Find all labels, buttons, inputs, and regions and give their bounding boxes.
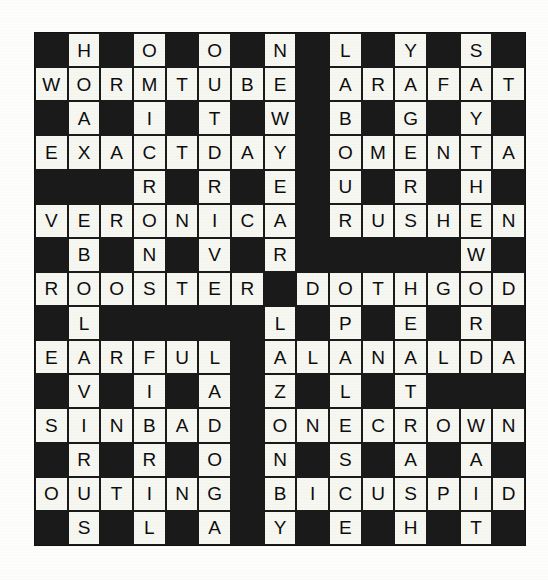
crossword-letter-cell[interactable]: A bbox=[394, 67, 427, 101]
crossword-letter-cell[interactable]: A bbox=[198, 374, 231, 408]
crossword-letter-cell[interactable]: D bbox=[492, 272, 525, 306]
crossword-letter-cell[interactable]: T bbox=[166, 135, 199, 169]
crossword-letter-cell[interactable]: I bbox=[296, 477, 329, 511]
crossword-letter-cell[interactable]: A bbox=[264, 340, 297, 374]
crossword-letter-cell[interactable]: C bbox=[231, 204, 264, 238]
crossword-letter-cell[interactable]: A bbox=[329, 67, 362, 101]
crossword-letter-cell[interactable]: A bbox=[460, 443, 493, 477]
crossword-letter-cell[interactable]: S bbox=[329, 443, 362, 477]
crossword-letter-cell[interactable]: Y bbox=[460, 101, 493, 135]
crossword-letter-cell[interactable]: I bbox=[198, 204, 231, 238]
crossword-letter-cell[interactable]: T bbox=[198, 101, 231, 135]
crossword-letter-cell[interactable]: L bbox=[198, 340, 231, 374]
crossword-letter-cell[interactable]: A bbox=[166, 408, 199, 442]
crossword-letter-cell[interactable]: D bbox=[460, 340, 493, 374]
crossword-letter-cell[interactable]: W bbox=[264, 101, 297, 135]
crossword-letter-cell[interactable]: R bbox=[133, 170, 166, 204]
crossword-letter-cell[interactable]: R bbox=[100, 67, 133, 101]
crossword-letter-cell[interactable]: S bbox=[133, 272, 166, 306]
crossword-letter-cell[interactable]: D bbox=[198, 408, 231, 442]
crossword-letter-cell[interactable]: R bbox=[329, 204, 362, 238]
crossword-letter-cell[interactable]: E bbox=[329, 408, 362, 442]
crossword-letter-cell[interactable]: C bbox=[329, 477, 362, 511]
crossword-letter-cell[interactable]: R bbox=[394, 408, 427, 442]
crossword-letter-cell[interactable]: W bbox=[460, 238, 493, 272]
crossword-letter-cell[interactable]: N bbox=[427, 135, 460, 169]
crossword-letter-cell[interactable]: Y bbox=[264, 511, 297, 545]
crossword-letter-cell[interactable]: G bbox=[198, 477, 231, 511]
crossword-letter-cell[interactable]: B bbox=[329, 101, 362, 135]
crossword-grid[interactable]: HOONLYSWORMTUBEARAFATAITWBGYEXACTDAYOMEN… bbox=[34, 32, 526, 546]
crossword-letter-cell[interactable]: O bbox=[427, 408, 460, 442]
crossword-letter-cell[interactable]: B bbox=[68, 238, 101, 272]
crossword-letter-cell[interactable]: T bbox=[362, 272, 395, 306]
crossword-letter-cell[interactable]: X bbox=[68, 135, 101, 169]
crossword-letter-cell[interactable]: F bbox=[427, 67, 460, 101]
crossword-letter-cell[interactable]: O bbox=[133, 204, 166, 238]
crossword-letter-cell[interactable]: B bbox=[264, 477, 297, 511]
crossword-letter-cell[interactable]: L bbox=[296, 340, 329, 374]
crossword-letter-cell[interactable]: N bbox=[166, 204, 199, 238]
crossword-letter-cell[interactable]: T bbox=[166, 67, 199, 101]
crossword-letter-cell[interactable]: E bbox=[264, 67, 297, 101]
crossword-letter-cell[interactable]: N bbox=[264, 33, 297, 67]
crossword-letter-cell[interactable]: Z bbox=[264, 374, 297, 408]
crossword-letter-cell[interactable]: E bbox=[394, 135, 427, 169]
crossword-letter-cell[interactable]: T bbox=[166, 272, 199, 306]
crossword-letter-cell[interactable]: S bbox=[68, 511, 101, 545]
crossword-letter-cell[interactable]: G bbox=[427, 272, 460, 306]
crossword-letter-cell[interactable]: Y bbox=[394, 33, 427, 67]
crossword-letter-cell[interactable]: R bbox=[198, 170, 231, 204]
crossword-letter-cell[interactable]: O bbox=[68, 272, 101, 306]
crossword-letter-cell[interactable]: S bbox=[460, 33, 493, 67]
crossword-letter-cell[interactable]: V bbox=[198, 238, 231, 272]
crossword-letter-cell[interactable]: O bbox=[35, 477, 68, 511]
crossword-letter-cell[interactable]: O bbox=[329, 135, 362, 169]
crossword-letter-cell[interactable]: S bbox=[394, 477, 427, 511]
crossword-letter-cell[interactable]: E bbox=[329, 511, 362, 545]
crossword-letter-cell[interactable]: L bbox=[264, 306, 297, 340]
crossword-letter-cell[interactable]: R bbox=[362, 67, 395, 101]
crossword-letter-cell[interactable]: R bbox=[133, 443, 166, 477]
crossword-letter-cell[interactable]: H bbox=[394, 511, 427, 545]
crossword-letter-cell[interactable]: E bbox=[35, 340, 68, 374]
crossword-letter-cell[interactable]: S bbox=[394, 204, 427, 238]
crossword-letter-cell[interactable]: H bbox=[394, 272, 427, 306]
crossword-letter-cell[interactable]: N bbox=[492, 408, 525, 442]
crossword-letter-cell[interactable]: R bbox=[100, 204, 133, 238]
crossword-letter-cell[interactable]: A bbox=[231, 135, 264, 169]
crossword-letter-cell[interactable]: A bbox=[492, 340, 525, 374]
crossword-letter-cell[interactable]: T bbox=[492, 67, 525, 101]
crossword-letter-cell[interactable]: P bbox=[329, 306, 362, 340]
crossword-letter-cell[interactable]: O bbox=[329, 272, 362, 306]
crossword-letter-cell[interactable]: O bbox=[264, 408, 297, 442]
crossword-letter-cell[interactable]: O bbox=[68, 67, 101, 101]
crossword-letter-cell[interactable]: H bbox=[427, 204, 460, 238]
crossword-letter-cell[interactable]: U bbox=[362, 477, 395, 511]
crossword-letter-cell[interactable]: Y bbox=[264, 135, 297, 169]
crossword-letter-cell[interactable]: U bbox=[166, 340, 199, 374]
crossword-letter-cell[interactable]: I bbox=[460, 477, 493, 511]
crossword-letter-cell[interactable]: O bbox=[460, 272, 493, 306]
crossword-letter-cell[interactable]: T bbox=[394, 374, 427, 408]
crossword-letter-cell[interactable]: O bbox=[198, 33, 231, 67]
crossword-letter-cell[interactable]: I bbox=[133, 477, 166, 511]
crossword-letter-cell[interactable]: L bbox=[329, 374, 362, 408]
crossword-letter-cell[interactable]: I bbox=[68, 408, 101, 442]
crossword-letter-cell[interactable]: B bbox=[133, 408, 166, 442]
crossword-letter-cell[interactable]: N bbox=[492, 204, 525, 238]
crossword-letter-cell[interactable]: U bbox=[362, 204, 395, 238]
crossword-letter-cell[interactable]: U bbox=[68, 477, 101, 511]
crossword-letter-cell[interactable]: R bbox=[231, 272, 264, 306]
crossword-letter-cell[interactable]: P bbox=[427, 477, 460, 511]
crossword-letter-cell[interactable]: A bbox=[68, 101, 101, 135]
crossword-letter-cell[interactable]: H bbox=[460, 170, 493, 204]
crossword-letter-cell[interactable]: W bbox=[460, 408, 493, 442]
crossword-letter-cell[interactable]: L bbox=[68, 306, 101, 340]
crossword-letter-cell[interactable]: F bbox=[133, 340, 166, 374]
crossword-letter-cell[interactable]: M bbox=[133, 67, 166, 101]
crossword-letter-cell[interactable]: L bbox=[329, 33, 362, 67]
crossword-letter-cell[interactable]: D bbox=[296, 272, 329, 306]
crossword-letter-cell[interactable]: R bbox=[394, 170, 427, 204]
crossword-letter-cell[interactable]: R bbox=[460, 306, 493, 340]
